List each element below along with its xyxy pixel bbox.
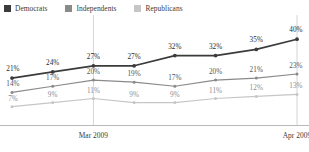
data-point-democrats-4 xyxy=(132,64,136,68)
x-axis-line xyxy=(0,125,309,126)
data-point-independents-1 xyxy=(11,91,14,94)
data-point-democrats-7 xyxy=(254,48,258,52)
data-point-independents-7 xyxy=(255,77,258,80)
data-label-independents-8: 23% xyxy=(289,62,302,70)
data-label-democrats-8: 40% xyxy=(289,26,302,34)
legend-swatch-democrats xyxy=(4,5,11,12)
data-label-independents-6: 20% xyxy=(209,68,222,76)
line-chart: Democrats Independents Republicans 21%24… xyxy=(0,0,309,152)
x-tick-label-mar-2009: Mar 2009 xyxy=(79,131,108,140)
legend-label-republicans: Republicans xyxy=(145,4,182,13)
data-point-republicans-4 xyxy=(133,101,136,104)
data-label-democrats-6: 32% xyxy=(209,43,222,51)
data-label-independents-1: 14% xyxy=(6,80,19,88)
data-label-democrats-1: 21% xyxy=(6,65,19,73)
legend-label-democrats: Democrats xyxy=(15,4,47,13)
data-point-democrats-5 xyxy=(173,54,177,58)
data-label-democrats-5: 32% xyxy=(168,43,181,51)
legend-item-democrats[interactable]: Democrats xyxy=(4,4,47,13)
data-point-republicans-8 xyxy=(296,93,299,96)
data-point-republicans-5 xyxy=(173,101,176,104)
data-point-republicans-3 xyxy=(92,97,95,100)
data-point-republicans-7 xyxy=(255,95,258,98)
data-point-republicans-2 xyxy=(51,101,54,104)
data-label-independents-7: 21% xyxy=(250,66,263,74)
legend-swatch-independents xyxy=(65,5,72,12)
data-point-independents-2 xyxy=(51,85,54,88)
data-point-democrats-8 xyxy=(295,37,299,41)
data-point-independents-3 xyxy=(92,79,95,82)
legend-swatch-republicans xyxy=(134,5,141,12)
data-label-republicans-5: 9% xyxy=(170,91,180,99)
x-tick-label-apr-2009: Apr 2009 xyxy=(283,131,309,140)
data-label-democrats-3: 27% xyxy=(87,53,100,61)
data-label-republicans-6: 11% xyxy=(209,87,222,95)
data-point-independents-8 xyxy=(296,72,299,75)
data-label-republicans-3: 11% xyxy=(87,87,100,95)
data-label-independents-3: 20% xyxy=(87,68,100,76)
legend-item-republicans[interactable]: Republicans xyxy=(134,4,182,13)
data-label-republicans-7: 12% xyxy=(250,84,263,92)
data-label-republicans-4: 9% xyxy=(129,91,139,99)
data-label-republicans-8: 13% xyxy=(289,82,302,90)
chart-legend: Democrats Independents Republicans xyxy=(4,2,201,15)
data-label-democrats-7: 35% xyxy=(250,36,263,44)
data-point-independents-5 xyxy=(173,85,176,88)
data-point-independents-6 xyxy=(214,79,217,82)
data-label-republicans-2: 9% xyxy=(48,91,58,99)
data-label-independents-4: 19% xyxy=(127,70,140,78)
legend-label-independents: Independents xyxy=(76,4,116,13)
data-label-democrats-2: 24% xyxy=(46,59,59,67)
data-label-republicans-1: 7% xyxy=(8,95,18,103)
data-point-republicans-1 xyxy=(11,105,14,108)
data-label-democrats-4: 27% xyxy=(127,53,140,61)
data-point-republicans-6 xyxy=(214,97,217,100)
data-label-independents-5: 17% xyxy=(168,74,181,82)
data-label-independents-2: 17% xyxy=(46,74,59,82)
legend-item-independents[interactable]: Independents xyxy=(65,4,116,13)
data-point-democrats-6 xyxy=(214,54,218,58)
data-point-independents-4 xyxy=(133,81,136,84)
